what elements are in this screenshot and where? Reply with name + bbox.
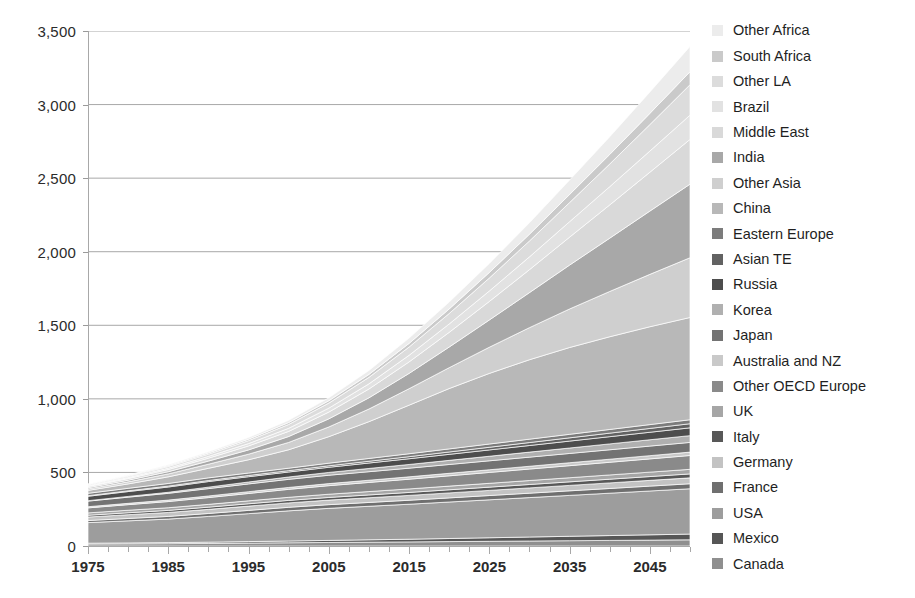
legend-item[interactable]: Germany bbox=[712, 450, 912, 475]
legend-label: France bbox=[733, 480, 778, 495]
legend-swatch-icon bbox=[712, 25, 723, 36]
x-tick-mark-minor bbox=[289, 547, 290, 552]
x-tick-mark-minor bbox=[590, 547, 591, 552]
legend-label: Other LA bbox=[733, 74, 791, 89]
legend-label: Australia and NZ bbox=[733, 354, 841, 369]
legend-swatch-icon bbox=[712, 254, 723, 265]
legend-label: Canada bbox=[733, 557, 784, 572]
x-tick-mark-minor bbox=[449, 547, 450, 552]
legend-swatch-icon bbox=[712, 381, 723, 392]
legend-item[interactable]: USA bbox=[712, 500, 912, 525]
legend-swatch-icon bbox=[712, 51, 723, 62]
x-tick-mark-minor bbox=[529, 547, 530, 552]
x-tick-mark-minor bbox=[108, 547, 109, 552]
legend-label: Other Asia bbox=[733, 176, 801, 191]
x-tick-mark-minor bbox=[369, 547, 370, 552]
legend-swatch-icon bbox=[712, 228, 723, 239]
legend-item[interactable]: India bbox=[712, 145, 912, 170]
x-tick-mark-minor bbox=[188, 547, 189, 552]
legend-item[interactable]: Korea bbox=[712, 297, 912, 322]
x-tick-mark-minor bbox=[349, 547, 350, 552]
legend-label: Brazil bbox=[733, 100, 769, 115]
legend-label: South Africa bbox=[733, 49, 811, 64]
x-tick-mark-major bbox=[489, 547, 490, 554]
chart-legend: Other AfricaSouth AfricaOther LABrazilMi… bbox=[712, 18, 912, 577]
legend-swatch-icon bbox=[712, 304, 723, 315]
legend-item[interactable]: Mexico bbox=[712, 526, 912, 551]
legend-label: Other Africa bbox=[733, 23, 810, 38]
legend-item[interactable]: Eastern Europe bbox=[712, 221, 912, 246]
x-tick-label: 2045 bbox=[633, 558, 666, 575]
x-tick-mark-minor bbox=[228, 547, 229, 552]
x-tick-mark-minor bbox=[469, 547, 470, 552]
legend-swatch-icon bbox=[712, 482, 723, 493]
legend-swatch-icon bbox=[712, 279, 723, 290]
legend-swatch-icon bbox=[712, 406, 723, 417]
x-tick-label: 2035 bbox=[553, 558, 586, 575]
legend-item[interactable]: China bbox=[712, 196, 912, 221]
y-tick-label: 0 bbox=[67, 538, 76, 555]
legend-item[interactable]: Australia and NZ bbox=[712, 348, 912, 373]
y-tick-label: 2,000 bbox=[37, 243, 76, 260]
legend-item[interactable]: South Africa bbox=[712, 43, 912, 68]
legend-label: India bbox=[733, 150, 764, 165]
legend-swatch-icon bbox=[712, 178, 723, 189]
x-tick-mark-major bbox=[329, 547, 330, 554]
y-tick-label: 500 bbox=[50, 464, 76, 481]
y-tick-label: 3,500 bbox=[37, 23, 76, 40]
legend-item[interactable]: Brazil bbox=[712, 94, 912, 119]
legend-label: Other OECD Europe bbox=[733, 379, 866, 394]
legend-item[interactable]: UK bbox=[712, 399, 912, 424]
legend-item[interactable]: Asian TE bbox=[712, 247, 912, 272]
legend-swatch-icon bbox=[712, 330, 723, 341]
legend-label: Russia bbox=[733, 277, 777, 292]
legend-item[interactable]: Other Africa bbox=[712, 18, 912, 43]
x-tick-mark-major bbox=[249, 547, 250, 554]
x-tick-mark-minor bbox=[610, 547, 611, 552]
y-tick-label: 3,000 bbox=[37, 96, 76, 113]
x-tick-mark-minor bbox=[128, 547, 129, 552]
x-tick-mark-minor bbox=[309, 547, 310, 552]
legend-item[interactable]: Other Asia bbox=[712, 170, 912, 195]
legend-item[interactable]: Canada bbox=[712, 551, 912, 576]
x-tick-label: 1975 bbox=[71, 558, 104, 575]
x-tick-mark-minor bbox=[148, 547, 149, 552]
x-tick-mark-minor bbox=[269, 547, 270, 552]
legend-item[interactable]: Russia bbox=[712, 272, 912, 297]
legend-swatch-icon bbox=[712, 558, 723, 569]
x-tick-mark-minor bbox=[208, 547, 209, 552]
legend-label: China bbox=[733, 201, 771, 216]
x-tick-label: 1985 bbox=[152, 558, 185, 575]
legend-swatch-icon bbox=[712, 533, 723, 544]
x-tick-mark-minor bbox=[550, 547, 551, 552]
legend-item[interactable]: Other LA bbox=[712, 69, 912, 94]
x-tick-mark-major bbox=[168, 547, 169, 554]
legend-label: USA bbox=[733, 506, 763, 521]
x-tick-mark-major bbox=[570, 547, 571, 554]
x-tick-mark-minor bbox=[389, 547, 390, 552]
legend-label: Asian TE bbox=[733, 252, 792, 267]
legend-label: Eastern Europe bbox=[733, 227, 834, 242]
stacked-area-chart: 05001,0001,5002,0002,5003,0003,500 19751… bbox=[0, 0, 915, 598]
legend-label: Japan bbox=[733, 328, 773, 343]
y-tick-label: 2,500 bbox=[37, 170, 76, 187]
y-axis: 05001,0001,5002,0002,5003,0003,500 bbox=[0, 0, 88, 546]
legend-item[interactable]: France bbox=[712, 475, 912, 500]
plot-svg bbox=[88, 31, 690, 546]
legend-swatch-icon bbox=[712, 76, 723, 87]
legend-label: Germany bbox=[733, 455, 793, 470]
legend-item[interactable]: Japan bbox=[712, 323, 912, 348]
x-tick-mark-major bbox=[88, 547, 89, 554]
legend-swatch-icon bbox=[712, 127, 723, 138]
x-tick-mark-minor bbox=[630, 547, 631, 552]
legend-label: Korea bbox=[733, 303, 772, 318]
legend-swatch-icon bbox=[712, 203, 723, 214]
x-tick-mark-minor bbox=[670, 547, 671, 552]
legend-item[interactable]: Middle East bbox=[712, 120, 912, 145]
legend-item[interactable]: Other OECD Europe bbox=[712, 373, 912, 398]
x-tick-label: 2025 bbox=[473, 558, 506, 575]
plot-area bbox=[88, 31, 690, 546]
legend-item[interactable]: Italy bbox=[712, 424, 912, 449]
x-tick-label: 1995 bbox=[232, 558, 265, 575]
x-tick-mark-minor bbox=[429, 547, 430, 552]
